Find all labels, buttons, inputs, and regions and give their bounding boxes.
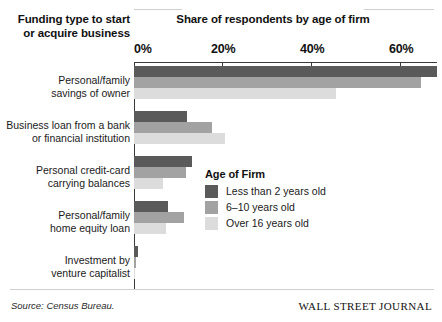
category-label-4: Investment by venture capitalist: [6, 254, 130, 279]
axis-top-rule: [134, 62, 437, 63]
legend-item-label: Less than 2 years old: [226, 185, 326, 198]
legend-item-label: 6–10 years old: [226, 201, 295, 214]
category-label-line: venture capitalist: [6, 267, 130, 280]
footer-divider: [10, 289, 434, 290]
bar-3-0: [134, 201, 168, 212]
bar-0-2: [134, 88, 336, 99]
category-label-3: Personal/family home equity loan: [6, 209, 130, 234]
category-label-line: savings of owner: [6, 87, 130, 100]
legend-item-label: Over 16 years old: [226, 217, 309, 230]
legend-item-0: Less than 2 years old: [205, 185, 326, 198]
bar-4-2: [134, 268, 135, 279]
category-label-line: Business loan from a bank: [6, 119, 130, 132]
category-label-line: carrying balances: [6, 177, 130, 190]
legend-swatch-icon: [205, 185, 218, 198]
bar-2-0: [134, 156, 192, 167]
bar-0-1: [134, 77, 421, 88]
source-note: Source: Census Bureau.: [11, 300, 115, 311]
legend-item-1: 6–10 years old: [205, 201, 326, 214]
x-tick-label-20: 20%: [211, 42, 235, 56]
category-label-line: Investment by: [6, 254, 130, 267]
bar-2-2: [134, 178, 163, 189]
chart-title: Share of respondents by age of firm: [138, 12, 408, 26]
legend-swatch-icon: [205, 201, 218, 214]
bar-3-2: [134, 223, 166, 234]
category-label-line: Personal/family: [6, 209, 130, 222]
x-tick-label-60: 60%: [389, 42, 413, 56]
bar-1-0: [134, 111, 187, 122]
bar-4-1: [134, 257, 136, 268]
legend-title: Age of Firm: [205, 168, 326, 180]
x-tick-label-0: 0%: [134, 42, 152, 56]
category-label-line: Personal/family: [6, 74, 130, 87]
bar-1-2: [134, 133, 225, 144]
category-label-1: Business loan from a bank or financial i…: [6, 119, 130, 144]
category-label-2: Personal credit-card carrying balances: [6, 164, 130, 189]
chart-subtitle: Funding type to start or acquire busines…: [8, 12, 130, 40]
legend-swatch-icon: [205, 217, 218, 230]
category-label-0: Personal/family savings of owner: [6, 74, 130, 99]
bar-4-0: [134, 246, 138, 257]
x-tick-label-40: 40%: [300, 42, 324, 56]
category-label-line: or financial institution: [6, 132, 130, 145]
bar-1-1: [134, 122, 212, 133]
wsj-brand: WALL STREET JOURNAL: [299, 300, 432, 312]
category-label-line: Personal credit-card: [6, 164, 130, 177]
legend-item-2: Over 16 years old: [205, 217, 326, 230]
category-label-line: home equity loan: [6, 222, 130, 235]
bar-0-0: [134, 66, 437, 77]
legend: Age of Firm Less than 2 years old 6–10 y…: [205, 168, 326, 233]
bar-2-1: [134, 167, 186, 178]
chart-container: Funding type to start or acquire busines…: [0, 0, 442, 322]
bar-3-1: [134, 212, 184, 223]
